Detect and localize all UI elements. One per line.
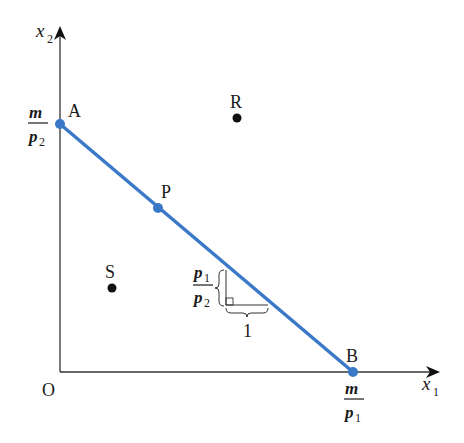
- svg-text:p: p: [192, 288, 203, 307]
- svg-text:1: 1: [433, 385, 439, 399]
- horizontal-brace: [226, 308, 268, 317]
- svg-text:x: x: [421, 373, 431, 394]
- point-a: [55, 119, 65, 129]
- budget-line: [60, 124, 353, 372]
- vertical-brace: [215, 270, 224, 306]
- svg-text:x: x: [35, 20, 45, 41]
- y-axis-label: x 2: [35, 20, 53, 46]
- svg-text:p: p: [27, 127, 38, 146]
- point-b: [348, 367, 358, 377]
- point-r-label: R: [230, 92, 242, 112]
- svg-text:m: m: [29, 103, 42, 122]
- point-r: [233, 114, 242, 123]
- slope-triangle: [226, 270, 268, 305]
- slope-run-label: 1: [243, 321, 252, 341]
- svg-text:1: 1: [204, 271, 210, 285]
- svg-text:1: 1: [355, 411, 361, 425]
- x-intercept-label: m p 1: [343, 379, 364, 425]
- point-b-label: B: [346, 346, 358, 366]
- point-s-label: S: [105, 262, 115, 282]
- svg-text:2: 2: [39, 135, 45, 149]
- svg-text:2: 2: [47, 32, 53, 46]
- svg-text:m: m: [345, 379, 358, 398]
- y-intercept-label: m p 2: [27, 103, 48, 149]
- svg-text:2: 2: [204, 296, 210, 310]
- svg-text:p: p: [343, 403, 354, 422]
- origin-label: O: [42, 380, 55, 400]
- x-axis-label: x 1: [421, 373, 439, 399]
- budget-line-diagram: x 2 x 1 O A P B R S m p 2 m p 1: [0, 0, 464, 443]
- svg-text:p: p: [192, 263, 203, 282]
- point-s: [108, 284, 117, 293]
- point-p-label: P: [161, 182, 171, 202]
- point-a-label: A: [68, 101, 81, 121]
- slope-rise-label: p 1 p 2: [192, 263, 213, 310]
- point-p: [153, 203, 163, 213]
